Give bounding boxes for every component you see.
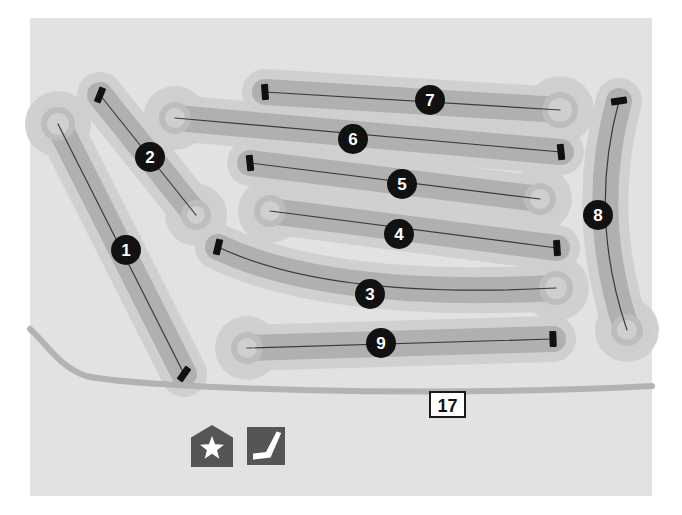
tee-block-4 <box>553 240 561 256</box>
hole-badge-circle-8 <box>583 200 613 230</box>
hole-badge-1[interactable]: 1 <box>111 235 141 265</box>
hole-badge-2[interactable]: 2 <box>135 142 165 172</box>
hole-badge-circle-9 <box>366 328 396 358</box>
tee-block-9 <box>549 331 557 347</box>
hole-badge-3[interactable]: 3 <box>355 279 385 309</box>
hole-badge-circle-5 <box>387 169 417 199</box>
route-shield-17[interactable]: 17 <box>430 392 465 417</box>
hole-badge-circle-6 <box>338 124 368 154</box>
tee-block-7 <box>261 84 269 100</box>
tee-marker-9[interactable] <box>549 331 557 347</box>
hole-badge-8[interactable]: 8 <box>583 200 613 230</box>
hole-badge-9[interactable]: 9 <box>366 328 396 358</box>
tee-marker-7[interactable] <box>261 84 269 100</box>
tee-marker-4[interactable] <box>553 240 561 256</box>
legend-item-driving-range[interactable] <box>247 427 285 465</box>
hole-badge-5[interactable]: 5 <box>387 169 417 199</box>
hole-badge-circle-3 <box>355 279 385 309</box>
hole-badge-circle-7 <box>415 85 445 115</box>
hole-badge-circle-4 <box>384 219 414 249</box>
hole-badge-6[interactable]: 6 <box>338 124 368 154</box>
hole-badge-7[interactable]: 7 <box>415 85 445 115</box>
hole-badge-circle-1 <box>111 235 141 265</box>
golf-course-map-page: 123456789 17 <box>0 0 682 515</box>
hole-badge-circle-2 <box>135 142 165 172</box>
route-shield-box <box>430 392 465 417</box>
course-map-canvas: 123456789 17 <box>0 0 682 515</box>
hole-badge-4[interactable]: 4 <box>384 219 414 249</box>
